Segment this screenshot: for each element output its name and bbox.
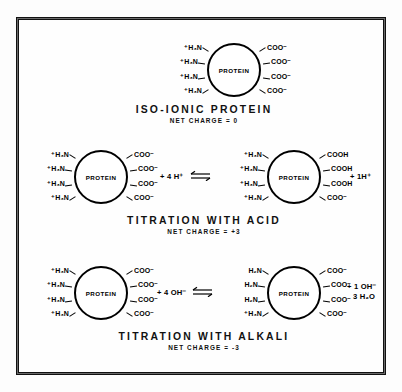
carboxyl-group: COOH [331,165,352,172]
protein-label: PROTEIN [209,67,259,74]
amine-group: ⁺H₃N [31,310,69,318]
carboxyl-group: COO⁻ [331,296,351,304]
bond-tick [258,169,265,171]
protein-circle: PROTEIN [74,150,128,204]
bond-tick [130,300,137,302]
bond-tick [65,184,72,186]
protein-label: PROTEIN [76,174,126,181]
amine-group: ⁺H₃N [31,267,69,275]
bond-tick [69,270,75,275]
carboxyl-group: COO⁻ [267,87,287,95]
caption-net-charge: NET CHARGE = 0 [3,117,402,124]
carboxyl-group: COO⁻ [134,310,154,318]
alkali-reactant-unit: PROTEIN ⁺H₃N ⁺H₃N ⁺H₃N ⁺H₃N COO⁻ COO⁻ CO… [41,258,161,328]
bond-tick [259,47,265,52]
carboxyl-group: COO⁻ [267,44,287,52]
carboxyl-group: COO⁻ [138,165,158,173]
amine-group: ⁺H₃N [224,310,262,318]
protein-label: PROTEIN [76,290,126,297]
bond-tick [323,300,330,302]
bond-tick [319,270,325,275]
carboxyl-group: COO⁻ [138,180,158,188]
amine-group: ⁺H₃N [27,281,65,289]
acid-reagent-right: + 1H⁺ [350,172,371,181]
acid-product-unit: PROTEIN ⁺H₃N ⁺H₃N ⁺H₃N ⁺H₃N COOH COOH CO… [234,142,354,212]
alkali-reagent-right-line1: + 1 OH⁻ [347,282,377,291]
bond-tick [130,285,137,287]
figure-border: PROTEIN ⁺H₃N ⁺H₃N ⁺H₃N ⁺H₃N COO⁻ COO⁻ CO… [16,17,386,375]
bond-tick [262,196,268,201]
amine-group: ⁺H₃N [164,44,202,52]
carboxyl-group: COO⁻ [271,58,291,66]
bond-tick [263,62,270,64]
caption-net-charge: NET CHARGE = +3 [3,228,402,235]
bond-tick [202,47,208,52]
protein-circle: PROTEIN [267,150,321,204]
figure-root: PROTEIN ⁺H₃N ⁺H₃N ⁺H₃N ⁺H₃N COO⁻ COO⁻ CO… [0,0,402,392]
bond-tick [69,196,75,201]
bond-tick [262,270,268,275]
bond-tick [259,89,265,94]
bond-tick [198,62,205,64]
bond-tick [65,169,72,171]
carboxyl-group: COOH [327,151,348,158]
caption-title: TITRATION WITH ALKALI [3,331,402,342]
bond-tick [258,285,265,287]
acid-reactant-unit: PROTEIN ⁺H₃N ⁺H₃N ⁺H₃N ⁺H₃N COO⁻ COO⁻ CO… [41,142,161,212]
bond-tick [126,270,132,275]
carboxyl-group: COO⁻ [134,267,154,275]
bond-tick [258,300,265,302]
bond-tick [202,89,208,94]
protein-circle: PROTEIN [74,266,128,320]
carboxyl-group: COOH [331,180,352,187]
bond-tick [319,196,325,201]
bond-tick [69,312,75,317]
bond-tick [258,184,265,186]
protein-label: PROTEIN [269,290,319,297]
protein-circle: PROTEIN [207,43,261,97]
bond-tick [69,154,75,159]
iso-ionic-protein-unit: PROTEIN ⁺H₃N ⁺H₃N ⁺H₃N ⁺H₃N COO⁻ COO⁻ CO… [174,35,294,105]
bond-tick [126,196,132,201]
bond-tick [65,285,72,287]
alkali-product-unit: PROTEIN H₂N H₂N H₂N ⁺H₃N COO⁻ COO⁻ COO⁻ … [234,258,354,328]
amine-group: ⁺H₃N [164,87,202,95]
protein-circle: PROTEIN [267,266,321,320]
caption-title: ISO-IONIC PROTEIN [3,104,402,115]
carboxyl-group: COO⁻ [138,281,158,289]
bond-tick [130,169,137,171]
amine-group: ⁺H₃N [160,58,198,66]
amine-group: ⁺H₃N [220,165,258,173]
amine-group: ⁺H₃N [27,165,65,173]
bond-tick [262,312,268,317]
bond-tick [126,312,132,317]
caption-net-charge: NET CHARGE = -3 [3,344,402,351]
amine-group: ⁺H₃N [224,194,262,202]
carboxyl-group: COO⁻ [327,194,347,202]
equilibrium-arrow-icon [190,170,212,181]
bond-tick [319,312,325,317]
bond-tick [198,77,205,79]
protein-label: PROTEIN [269,174,319,181]
bond-tick [126,154,132,159]
amine-group: ⁺H₃N [31,194,69,202]
carboxyl-group: COO⁻ [327,310,347,318]
amine-group: H₂N [224,267,262,274]
acid-reagent-left: + 4 H⁺ [160,172,184,181]
carboxyl-group: COO⁻ [327,267,347,275]
carboxyl-group: COO⁻ [134,194,154,202]
carboxyl-group: COO⁻ [134,151,154,159]
bond-tick [319,154,325,159]
amine-group: H₂N [220,296,258,303]
amine-group: H₂N [220,281,258,288]
amine-group: ⁺H₃N [220,180,258,188]
bond-tick [263,77,270,79]
bond-tick [323,169,330,171]
amine-group: ⁺H₃N [224,151,262,159]
carboxyl-group: COO⁻ [271,73,291,81]
bond-tick [65,300,72,302]
bond-tick [323,184,330,186]
equilibrium-arrow-icon [192,286,214,297]
amine-group: ⁺H₃N [160,73,198,81]
bond-tick [130,184,137,186]
